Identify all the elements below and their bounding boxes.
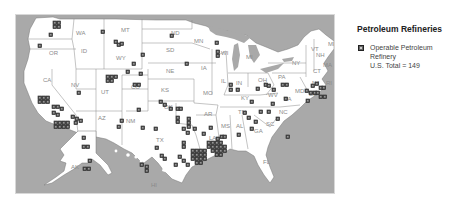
refinery-marker — [191, 153, 195, 157]
refinery-marker — [223, 149, 227, 153]
refinery-marker — [159, 100, 163, 104]
refinery-marker — [267, 84, 271, 88]
refinery-marker — [83, 167, 87, 171]
refinery-marker — [199, 149, 203, 153]
refinery-marker — [79, 119, 83, 123]
state-label-ut: UT — [101, 89, 109, 95]
refinery-marker — [187, 125, 191, 129]
legend-label-line1: Operable Petroleum — [370, 43, 433, 52]
refinery-marker — [187, 117, 191, 121]
refinery-marker — [199, 157, 203, 161]
refinery-marker — [60, 107, 64, 111]
refinery-marker — [276, 117, 280, 121]
refinery-marker — [319, 95, 323, 99]
refinery-marker — [185, 62, 189, 66]
state-label-ia: IA — [201, 65, 207, 71]
state-label-mt: MT — [121, 27, 130, 33]
refinery-marker — [88, 159, 92, 163]
refinery-marker — [311, 84, 315, 88]
refinery-marker — [133, 83, 137, 87]
refinery-marker — [140, 163, 144, 167]
refinery-marker — [54, 125, 58, 129]
refinery-marker — [215, 145, 219, 149]
refinery-marker — [195, 149, 199, 153]
refinery-marker — [38, 44, 42, 48]
state-label-sc: SC — [266, 121, 275, 127]
refinery-marker — [141, 126, 145, 130]
refinery-marker — [132, 62, 136, 66]
state-label-il: IL — [221, 78, 227, 84]
refinery-marker — [272, 88, 276, 92]
refinery-marker — [49, 33, 53, 37]
refinery-marker — [137, 108, 141, 112]
map-svg: WAORCAIDNVMTWYUTAZCONMNDSDNEKSOKTXMNIAMO… — [16, 15, 335, 194]
refinery-marker — [46, 96, 50, 100]
legend-label: Operable Petroleum Refinery U.S. Total =… — [370, 43, 433, 70]
state-label-ga: GA — [254, 128, 263, 134]
refinery-marker — [203, 153, 207, 157]
refinery-marker — [223, 145, 227, 149]
refinery-marker — [182, 127, 186, 131]
state-label-wy: WY — [116, 55, 126, 61]
refinery-marker — [54, 121, 58, 125]
refinery-marker — [154, 127, 158, 131]
state-label-wi: WI — [221, 50, 229, 56]
refinery-marker — [38, 100, 42, 104]
refinery-marker — [305, 89, 309, 93]
refinery-marker — [174, 163, 178, 167]
refinery-marker — [114, 75, 118, 79]
state-label-md: MD — [295, 88, 305, 94]
refinery-marker — [203, 157, 207, 161]
refinery-marker — [237, 133, 241, 137]
refinery-marker — [193, 127, 197, 131]
legend-title: Petroleum Refineries — [357, 24, 455, 34]
refinery-marker — [236, 88, 240, 92]
refinery-marker — [137, 83, 141, 87]
refinery-marker — [323, 95, 327, 99]
state-label-nm: NM — [126, 118, 135, 124]
refinery-marker — [211, 141, 215, 145]
legend-total: U.S. Total = 149 — [370, 61, 433, 70]
refinery-marker — [216, 50, 220, 54]
state-label-nh: NH — [316, 52, 325, 58]
refinery-marker — [256, 87, 260, 91]
refinery-marker — [179, 107, 183, 111]
refinery-marker — [145, 165, 149, 169]
refinery-marker — [209, 126, 213, 130]
refinery-marker — [66, 121, 70, 125]
refinery-marker — [42, 100, 46, 104]
state-label-ne: NE — [166, 68, 174, 74]
refinery-marker — [87, 167, 91, 171]
refinery-marker — [56, 113, 60, 117]
state-label-ct: CT — [313, 68, 321, 74]
refinery-marker — [106, 75, 110, 79]
refinery-marker — [57, 21, 61, 25]
refinery-marker — [42, 96, 46, 100]
state-label-ms: MS — [221, 123, 230, 129]
state-label-id: ID — [81, 48, 88, 54]
refinery-marker — [207, 145, 211, 149]
refinery-marker — [215, 153, 219, 157]
refinery-marker — [170, 34, 174, 38]
refinery-marker — [250, 100, 254, 104]
refinery-marker — [243, 111, 247, 115]
refinery-marker — [163, 157, 167, 161]
state-label-ny: NY — [292, 60, 300, 66]
refinery-marker — [110, 79, 114, 83]
refinery-marker — [187, 121, 191, 125]
refinery-marker — [182, 145, 186, 149]
refinery-marker — [110, 75, 114, 79]
refinery-marker — [74, 121, 78, 125]
refinery-marker — [219, 145, 223, 149]
refinery-marker — [284, 97, 288, 101]
refinery-marker — [106, 79, 110, 83]
state-label-oh: OH — [258, 77, 267, 83]
legend-label-line2: Refinery — [370, 52, 433, 61]
state-label-al: AL — [236, 123, 244, 129]
refinery-marker — [120, 119, 124, 123]
refinery-marker — [211, 145, 215, 149]
refinery-marker — [216, 54, 220, 58]
refinery-marker — [57, 25, 61, 29]
state-label-nc: NC — [279, 109, 288, 115]
refinery-marker — [77, 91, 81, 95]
